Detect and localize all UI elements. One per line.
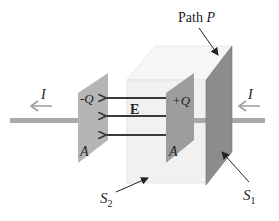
current-arrow-right <box>239 101 260 111</box>
label-current-right: I <box>247 87 254 102</box>
label-s2: S2 <box>100 190 113 209</box>
label-current-left: I <box>40 87 47 102</box>
current-arrow-left <box>31 101 52 111</box>
s1-pointer <box>222 152 249 182</box>
label-area-right: A <box>168 144 178 159</box>
label-area-left: A <box>79 144 89 159</box>
label-field-e: E <box>130 102 139 117</box>
label-path: Path P <box>178 10 215 25</box>
label-s1: S1 <box>243 187 256 206</box>
capacitor-diagram: Path P I I -Q +Q E A A S2 S1 <box>0 0 279 221</box>
label-pos-charge: +Q <box>172 93 191 108</box>
label-neg-charge: -Q <box>80 91 94 106</box>
